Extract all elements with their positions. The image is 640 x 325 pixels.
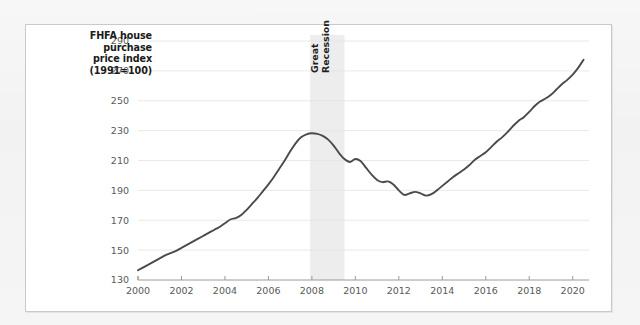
x-tick-label: 2016: [474, 285, 498, 296]
recession-label-line-2: Recession: [320, 20, 331, 73]
axis-title-line-1: FHFA house: [90, 30, 152, 41]
axis-title-line-2: purchase: [103, 42, 152, 53]
x-tick-label: 2012: [387, 285, 411, 296]
recession-annotation-text: Great Recession: [309, 20, 331, 73]
y-tick-label: 130: [111, 274, 129, 285]
x-tick-label: 2014: [430, 285, 454, 296]
x-tick-label: 2018: [517, 285, 541, 296]
y-tick-label: 150: [111, 245, 129, 256]
x-axis-group: [138, 276, 589, 280]
x-tick-label: 2004: [213, 285, 237, 296]
x-tick-label: 2006: [256, 285, 280, 296]
recession-label-line-1: Great: [309, 20, 320, 73]
y-tick-label: 250: [111, 95, 129, 106]
x-tick-label: 2002: [169, 285, 193, 296]
recession-annotation: Great Recession: [309, 73, 371, 143]
y-tick-label: 230: [111, 125, 129, 136]
y-tick-label: 170: [111, 215, 129, 226]
x-tick-label: 2000: [126, 285, 150, 296]
x-tick-labels-group: 2000200220042006200820102012201420162018…: [126, 285, 585, 296]
axis-title-line-3: price index: [93, 53, 152, 64]
x-tick-label: 2008: [300, 285, 324, 296]
axis-title-line-4: (1991=100): [89, 65, 152, 76]
x-tick-label: 2010: [343, 285, 367, 296]
y-tick-label: 210: [111, 155, 129, 166]
y-axis-title: FHFA house purchase price index (1991=10…: [56, 30, 152, 76]
x-tick-label: 2020: [561, 285, 585, 296]
y-tick-label: 190: [111, 185, 129, 196]
chart-panel: 130150170190210230250270290 200020022004…: [25, 24, 612, 312]
